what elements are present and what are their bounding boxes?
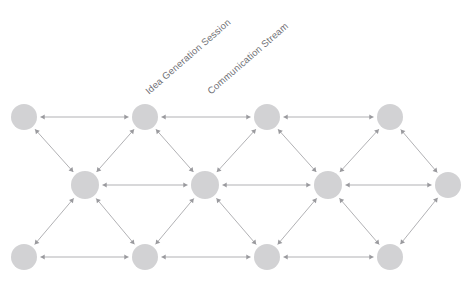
node-t3[interactable] (254, 104, 280, 130)
arrow-head (246, 114, 250, 119)
arrow-head (41, 254, 45, 259)
arrow-head (284, 254, 288, 259)
network-canvas (0, 0, 473, 286)
arrow-head (306, 182, 310, 187)
edge-line (401, 130, 438, 173)
edge-line (216, 198, 256, 244)
arrow-head (162, 254, 166, 259)
arrow-head (246, 254, 250, 259)
edge-t3-t4 (284, 114, 374, 119)
edge-line (96, 198, 134, 244)
arrow-head (124, 114, 128, 119)
edge-m3-m4 (346, 182, 432, 187)
edge-m1-b2 (96, 198, 134, 244)
node-m2[interactable] (191, 171, 219, 199)
edge-line (35, 129, 73, 172)
edge-t2-m1 (97, 129, 135, 172)
edge-m3-b4 (339, 198, 379, 244)
edge-line (400, 198, 437, 244)
edge-t2-m2 (156, 129, 194, 172)
arrow-head (346, 182, 350, 187)
edge-line (35, 198, 74, 244)
edge-m2-m3 (223, 182, 311, 187)
edge-line (340, 129, 379, 172)
arrow-head (124, 254, 128, 259)
edge-t1-m1 (35, 129, 73, 172)
arrow-head (223, 182, 227, 187)
edge-t4-m4 (401, 130, 438, 173)
node-m3[interactable] (314, 171, 342, 199)
edge-m2-b2 (156, 198, 194, 244)
edge-m1-b1 (35, 198, 74, 244)
arrow-head (433, 198, 438, 203)
edge-m1-m2 (103, 182, 188, 187)
node-t1[interactable] (11, 104, 37, 130)
edge-m3-b3 (278, 198, 317, 244)
node-b4[interactable] (377, 244, 403, 270)
node-b1[interactable] (11, 244, 37, 270)
edge-t4-m3 (340, 129, 379, 172)
edge-m4-b4 (400, 198, 437, 244)
node-b3[interactable] (254, 244, 280, 270)
node-b2[interactable] (132, 244, 158, 270)
node-layer (11, 104, 461, 270)
arrow-head (369, 254, 373, 259)
arrow-head (162, 114, 166, 119)
edge-b2-b3 (162, 254, 251, 259)
node-t2[interactable] (132, 104, 158, 130)
network-diagram: Idea Generation Session Communication St… (0, 0, 473, 286)
edge-line (217, 129, 256, 172)
arrow-head (183, 182, 187, 187)
edge-line (156, 198, 194, 244)
edge-b1-b2 (41, 254, 129, 259)
edge-line (278, 129, 316, 172)
arrow-head (41, 114, 45, 119)
arrow-head (103, 182, 107, 187)
edge-line (97, 129, 135, 172)
edge-t3-m2 (217, 129, 256, 172)
arrow-head (427, 182, 431, 187)
edge-m2-b3 (216, 198, 256, 244)
edge-line (278, 198, 317, 244)
edge-line (156, 129, 194, 172)
edge-t1-t2 (41, 114, 129, 119)
edge-b3-b4 (284, 254, 374, 259)
arrow-head (400, 239, 405, 244)
node-t4[interactable] (377, 104, 403, 130)
edge-line (339, 198, 379, 244)
edge-t2-t3 (162, 114, 251, 119)
arrow-head (369, 114, 373, 119)
arrow-head (284, 114, 288, 119)
node-m1[interactable] (71, 171, 99, 199)
node-m4[interactable] (435, 172, 461, 198)
edge-t3-m3 (278, 129, 316, 172)
